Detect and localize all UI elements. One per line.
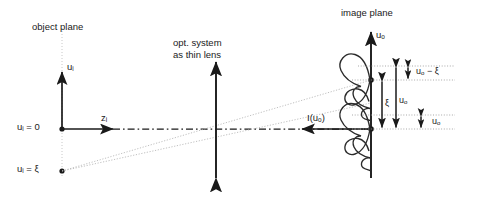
image-vertical-axis-label-sub: o bbox=[381, 33, 385, 40]
measure-label-xi: ξ bbox=[385, 98, 389, 108]
object-horizontal-axis-label-sub: i bbox=[106, 116, 107, 123]
optical-system-title-line1: opt. system bbox=[173, 38, 222, 49]
measure-label-uo-inner: uo bbox=[399, 95, 407, 105]
object-origin-label-rest: = 0 bbox=[24, 121, 40, 132]
object-vertical-axis-label-sub: i bbox=[72, 65, 73, 72]
image-vertical-axis-label: uo bbox=[376, 30, 385, 41]
object-source-label: ui = ξ bbox=[17, 164, 39, 175]
object-vertical-axis-label: ui bbox=[67, 62, 74, 73]
optical-system-title-line2: as thin lens bbox=[173, 50, 221, 61]
object-horizontal-axis-label: zi bbox=[101, 113, 107, 124]
object-origin-label: ui = 0 bbox=[17, 122, 40, 133]
object-plane-title: object plane bbox=[32, 22, 83, 33]
image-plane-axis bbox=[368, 32, 374, 178]
intensity-label-open: I(u bbox=[307, 112, 318, 123]
measure-label-uo-minus-xi-rest: − ξ bbox=[424, 66, 438, 76]
measure-label-uo-outer: uo bbox=[432, 116, 440, 126]
measure-label-uo-minus-xi: uo − ξ bbox=[416, 66, 439, 76]
intensity-label-close: ) bbox=[322, 112, 325, 123]
image-plane-title: image plane bbox=[341, 8, 393, 19]
measure-label-uo-outer-sub: o bbox=[437, 119, 440, 126]
object-source-label-rest: = ξ bbox=[24, 163, 39, 174]
intensity-label: I(uo) bbox=[307, 113, 325, 124]
psf-curve-onaxis bbox=[340, 103, 371, 171]
optical-imaging-diagram: object plane opt. system as thin lens im… bbox=[0, 0, 483, 197]
measure-label-uo-inner-sub: o bbox=[404, 98, 407, 105]
object-origin-dot bbox=[59, 126, 64, 131]
